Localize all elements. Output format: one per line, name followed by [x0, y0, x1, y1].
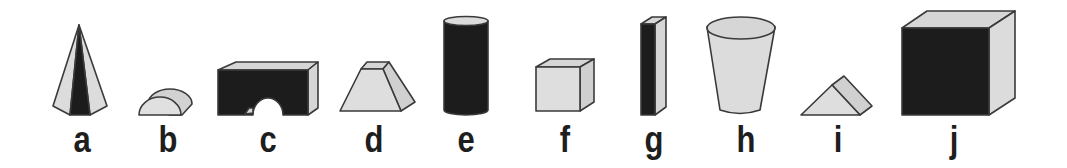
large-cube-right-face [989, 11, 1015, 115]
figure-j-large-cube-icon [902, 11, 1015, 115]
cube-right-face [580, 59, 594, 111]
label-a: a [65, 120, 99, 160]
cylinder-top [444, 17, 488, 26]
cube-front-face [536, 67, 580, 111]
figure-i-triangular-prism-icon [801, 76, 872, 115]
label-c: c [251, 120, 285, 160]
figure-a-hexagonal-pyramid-icon [53, 25, 107, 115]
arch-top-face [218, 62, 318, 70]
label-d: d [357, 120, 391, 160]
figure-g-bar-icon [641, 17, 666, 115]
figure-e-cylinder-icon [444, 17, 488, 116]
cup-rim [707, 17, 775, 39]
label-f: f [548, 120, 582, 160]
bar-right-face [655, 17, 666, 115]
cup-body [707, 27, 775, 114]
arch-front-face [218, 70, 308, 115]
figure-f-cube-icon [536, 59, 594, 111]
label-h: h [729, 120, 763, 160]
bar-front-face [641, 24, 655, 115]
label-j: j [937, 120, 971, 160]
large-cube-front-face [902, 28, 989, 115]
figure-h-cup-icon [707, 17, 775, 114]
figure-c-arch-block-icon [218, 62, 318, 115]
figure-b-half-cylinder-icon [139, 89, 192, 115]
label-g: g [637, 120, 671, 160]
arch-right-face [308, 62, 318, 115]
label-e: e [449, 120, 483, 160]
cylinder-body [444, 21, 488, 115]
label-b: b [151, 120, 185, 160]
label-i: i [821, 120, 855, 160]
figure-d-truncated-pyramid-icon [340, 62, 415, 111]
